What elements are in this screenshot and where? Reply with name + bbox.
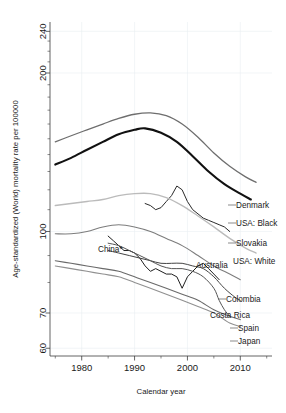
series-label-colombia: Colombia [226,295,261,304]
series-line-australia [55,225,240,280]
series-label-spain: Spain [238,324,259,333]
x-tick-label: 1980 [71,362,92,373]
series-label-usa-black: USA: Black [236,219,278,228]
x-tick-label: 1990 [124,362,145,373]
chart-figure: 6070100200240 1980199020002010 DenmarkUS… [0,0,286,413]
x-tick-labels-group: 1980199020002010 [71,362,251,373]
series-label-slovakia: Slovakia [236,239,267,248]
y-tick-label: 100 [37,224,48,240]
series-label-usa-white: USA: White [233,257,276,266]
y-tick-label: 240 [37,23,48,39]
series-line-denmark [55,113,256,182]
series-line-usa-black [55,128,251,199]
series-label-denmark: Denmark [236,201,270,210]
series-label-japan: Japan [238,337,261,346]
x-tick-label: 2010 [230,362,251,373]
series-label-costa-rica: Costa Rica [210,311,250,320]
x-tick-label: 2000 [177,362,198,373]
y-tick-label: 60 [37,343,48,354]
series-label-china: China* [98,245,123,254]
y-tick-labels-group: 6070100200240 [37,23,48,353]
y-tick-label: 70 [37,308,48,319]
y-tick-label: 200 [37,65,48,81]
y-axis-title: Age-standardized (World) mortality rate … [11,100,20,278]
series-label-australia: Australia [196,261,228,270]
gridlines-group [50,22,272,356]
mortality-rate-line-chart: 6070100200240 1980199020002010 DenmarkUS… [0,0,286,413]
x-axis-title: Calendar year [137,387,186,396]
series-line-usa-white [55,193,256,253]
